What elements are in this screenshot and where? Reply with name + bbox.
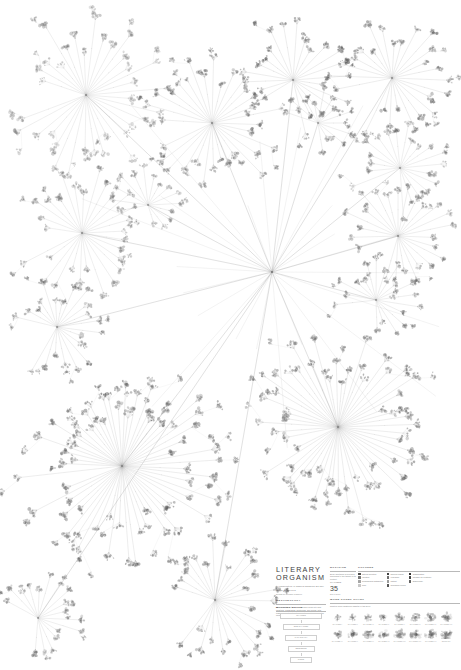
- colour-swatch: [409, 576, 412, 579]
- branch-node: [135, 491, 136, 492]
- tuft-node: [426, 97, 429, 101]
- word-count-label: CHAPTER VI: [408, 623, 422, 625]
- hub-spoke: [392, 32, 415, 78]
- word-count-cell: CHAPTER III: [361, 609, 375, 625]
- tuft-node: [127, 410, 130, 413]
- chapter-hub: [109, 157, 189, 230]
- hub-spoke: [338, 300, 376, 304]
- hub-spoke: [392, 281, 393, 286]
- hub-spoke: [82, 233, 103, 292]
- hub-spoke: [129, 118, 143, 124]
- tuft-stem: [101, 150, 102, 154]
- branch-node: [154, 194, 155, 195]
- branch-node: [424, 249, 425, 250]
- tuft-node: [271, 431, 273, 433]
- hub-spoke: [338, 427, 403, 433]
- branch-node: [113, 87, 114, 88]
- hub-spoke: [136, 178, 148, 205]
- hub-spoke: [33, 327, 57, 369]
- tuft-node: [56, 199, 58, 201]
- tuft-node: [162, 113, 165, 115]
- thumbnail-blob: [429, 631, 432, 633]
- notation-body: Every sentence is coloured according to …: [330, 573, 356, 582]
- hub-spoke: [5, 477, 22, 491]
- hub-spoke: [70, 366, 75, 378]
- chapter-hub: [0, 374, 239, 578]
- branch-node: [159, 195, 160, 196]
- tuft-node: [419, 200, 420, 202]
- branch-node: [74, 67, 75, 68]
- branch-node: [69, 213, 70, 214]
- tuft-node: [436, 112, 438, 113]
- tuft-node: [263, 475, 265, 477]
- hub-spoke: [338, 427, 400, 474]
- hub-spoke: [22, 466, 122, 477]
- hub-spoke: [338, 427, 390, 458]
- hub-spoke: [166, 123, 212, 145]
- word-count-cell: CHAPTER VI: [408, 609, 422, 625]
- word-count-thumbnail: [439, 609, 453, 622]
- branch-node: [310, 378, 311, 379]
- branch-node: [91, 486, 92, 487]
- branch-node: [213, 622, 214, 623]
- colour-legend-label: Variation: [362, 576, 370, 579]
- branch-node: [110, 209, 111, 210]
- chapter-hub: [324, 20, 461, 138]
- branch-node: [395, 95, 396, 96]
- word-count-label: SUMMARY: [439, 640, 453, 642]
- tuft-node: [196, 555, 198, 558]
- hub-spoke: [86, 20, 95, 95]
- branch-node: [139, 419, 140, 420]
- hub-spoke: [380, 140, 400, 168]
- branch-node: [165, 442, 166, 443]
- hub-spoke: [82, 231, 121, 233]
- hub-spoke: [338, 427, 375, 481]
- hub-spoke: [153, 527, 163, 550]
- hub-spoke: [215, 590, 273, 600]
- hub-spoke: [159, 427, 170, 429]
- tuft-node: [44, 199, 46, 201]
- tuft-node: [257, 87, 259, 89]
- branch-node: [311, 111, 312, 112]
- hub-spoke: [249, 80, 293, 82]
- hub-spoke: [46, 648, 51, 656]
- tuft-node: [255, 418, 258, 422]
- hub-spoke: [119, 189, 148, 205]
- hub-spoke: [293, 80, 319, 84]
- branch-node: [287, 47, 288, 48]
- tuft-node: [160, 142, 162, 144]
- tuft-node: [255, 158, 257, 160]
- tuft-node: [49, 131, 52, 133]
- tuft-node: [104, 333, 106, 334]
- hub-spoke: [398, 236, 417, 263]
- chapter-hub: [171, 533, 289, 668]
- hub-spoke: [62, 202, 82, 233]
- hub-spoke: [57, 282, 65, 299]
- colour-legend-item: Geographical distribution: [358, 580, 383, 583]
- branch-node: [62, 214, 63, 215]
- hub-spoke: [57, 305, 61, 327]
- tuft-node: [265, 477, 268, 480]
- colours-column: COLOURS Natural selectionVariationGeogra…: [358, 566, 460, 587]
- hub-spoke: [122, 460, 216, 466]
- hub-spoke: [262, 66, 293, 80]
- branch-node: [60, 261, 61, 262]
- hub-spoke: [212, 123, 257, 124]
- tuft-node: [198, 625, 200, 627]
- word-count-label: CHAPTER II: [346, 623, 360, 625]
- mapping-scale-stack: CHAPTERSUB-CHAPTERPARAGRAPHSENTENCEWORD: [276, 613, 326, 662]
- hub-spoke: [153, 52, 154, 64]
- hub-node: [317, 122, 319, 124]
- branch-node: [22, 601, 23, 602]
- word-count-cell: CHAPTER I: [330, 609, 344, 625]
- hub-spoke: [293, 80, 305, 133]
- root-spoke: [272, 205, 332, 272]
- tuft-node: [254, 109, 256, 111]
- thumbnail-blob: [398, 616, 400, 618]
- branch-node: [325, 93, 326, 94]
- tuft-node: [360, 376, 363, 380]
- hub-spoke: [348, 507, 371, 521]
- hub-spoke: [56, 95, 86, 165]
- branch-node: [231, 97, 232, 98]
- hub-spoke: [400, 164, 441, 168]
